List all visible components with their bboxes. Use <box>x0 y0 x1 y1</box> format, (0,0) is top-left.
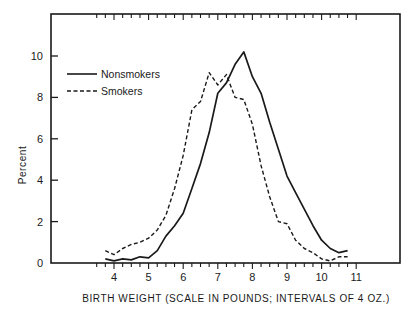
legend-label-nonsmokers: Nonsmokers <box>101 68 160 80</box>
x-tick-label: 5 <box>146 271 152 283</box>
y-tick-label: 2 <box>37 216 43 228</box>
x-axis: 4567891011 <box>97 263 362 283</box>
x-tick-label: 9 <box>284 271 290 283</box>
x-tick-label: 4 <box>111 271 117 283</box>
series-smokers <box>105 73 347 261</box>
x-tick-label: 10 <box>315 271 327 283</box>
y-tick-label: 0 <box>37 257 43 269</box>
legend: Nonsmokers Smokers <box>67 68 160 97</box>
plot-border <box>51 14 400 263</box>
x-tick-label: 7 <box>215 271 221 283</box>
y-axis-title: Percent <box>17 146 28 185</box>
x-tick-label: 8 <box>249 271 255 283</box>
data-series <box>105 52 347 261</box>
y-tick-label: 8 <box>37 91 43 103</box>
x-tick-label: 11 <box>350 271 361 283</box>
birth-weight-chart: 4567891011 0246810 Nonsmokers Smokers Pe… <box>0 0 418 320</box>
legend-label-smokers: Smokers <box>101 85 142 97</box>
y-axis: 0246810 <box>31 50 58 269</box>
y-tick-label: 10 <box>31 50 43 62</box>
y-tick-label: 6 <box>37 133 43 145</box>
x-tick-label: 6 <box>180 271 186 283</box>
y-tick-label: 4 <box>37 174 43 186</box>
x-axis-title: BIRTH WEIGHT (SCALE IN POUNDS; INTERVALS… <box>82 293 390 304</box>
series-nonsmokers <box>105 52 347 261</box>
top-minor-ticks <box>97 14 357 20</box>
plot-frame <box>51 14 400 263</box>
